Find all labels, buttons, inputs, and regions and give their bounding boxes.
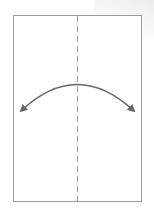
fold-diagram xyxy=(0,0,154,216)
